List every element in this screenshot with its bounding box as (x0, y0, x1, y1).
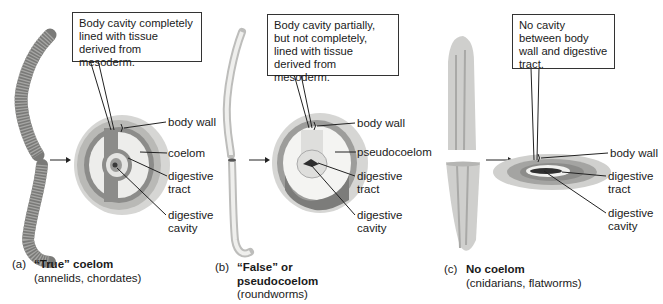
label-digestive-tract: digestive tract (608, 170, 660, 196)
label-digestive-cavity: digestive cavity (357, 209, 407, 235)
caption-title: “True” coelom (34, 258, 113, 272)
caption-title: No coelom (466, 263, 525, 277)
panel-true-coelom: Body cavity completely lined with tissue… (0, 0, 215, 304)
caption-subtitle: (roundworms) (237, 288, 308, 302)
caption-title-line2: pseudocoelom (237, 275, 318, 289)
label-coelom: coelom (168, 147, 205, 160)
panel-pseudocoelom: Body cavity partially, but not completel… (215, 0, 430, 304)
label-body-wall: body wall (357, 117, 405, 130)
caption-letter: (a) (12, 258, 26, 272)
caption-letter: (b) (215, 261, 229, 275)
label-digestive-tract: digestive tract (168, 170, 218, 196)
label-digestive-cavity: digestive cavity (168, 209, 218, 235)
label-body-wall: body wall (610, 147, 658, 160)
earthworm-icon (21, 35, 50, 262)
callout-true-coelom: Body cavity completely lined with tissue… (72, 12, 202, 62)
callout-pseudocoelom: Body cavity partially, but not completel… (267, 14, 399, 76)
label-body-wall: body wall (168, 116, 216, 129)
flatworm-icon (446, 36, 480, 251)
panel-no-coelom: No cavity between body wall and digestiv… (430, 0, 663, 304)
label-digestive-cavity: digestive cavity (608, 207, 660, 233)
callout-no-coelom: No cavity between body wall and digestiv… (512, 14, 615, 69)
caption-title: “False” or (237, 261, 293, 275)
label-digestive-tract: digestive tract (357, 170, 407, 196)
roundworm-icon (227, 32, 250, 254)
caption-subtitle: (cnidarians, flatworms) (466, 277, 582, 291)
flat-cross-section (493, 154, 611, 190)
label-pseudocoelom: pseudocoelom (357, 146, 432, 159)
caption-letter: (c) (444, 263, 457, 277)
pseudocoelom-cross-section (272, 113, 368, 213)
caption-subtitle: (annelids, chordates) (34, 272, 141, 286)
